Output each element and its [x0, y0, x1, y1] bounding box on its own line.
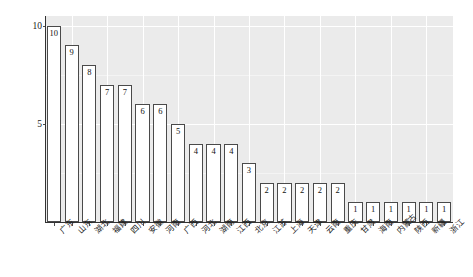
y-tick-label: 10: [16, 21, 42, 31]
bar[interactable]: 6: [135, 104, 149, 222]
x-tick-mark: [196, 223, 197, 226]
bar[interactable]: 2: [277, 183, 291, 222]
bar-value-label: 2: [314, 185, 326, 195]
x-tick-mark: [72, 223, 73, 226]
x-tick-mark: [267, 223, 268, 226]
x-tick-mark: [302, 223, 303, 226]
x-tick-label: 甘肃: [359, 229, 365, 235]
bar-value-label: 2: [296, 185, 308, 195]
y-axis-line: [45, 16, 46, 223]
x-tick-label: 河南: [164, 229, 170, 235]
x-tick-label: 新疆: [430, 229, 436, 235]
x-tick-label: 浙江: [448, 229, 454, 235]
x-tick-label: 福建: [111, 229, 117, 235]
x-tick-label: 广东: [58, 229, 64, 235]
bar-value-label: 4: [190, 146, 202, 156]
bar-value-label: 1: [367, 204, 379, 214]
x-tick-mark: [391, 223, 392, 226]
bar-value-label: 4: [207, 146, 219, 156]
bar-value-label: 5: [172, 126, 184, 136]
x-tick-mark: [125, 223, 126, 226]
bar[interactable]: 2: [313, 183, 327, 222]
bar[interactable]: 10: [47, 26, 61, 222]
bar[interactable]: 6: [153, 104, 167, 222]
bar-value-label: 6: [136, 106, 148, 116]
x-tick-label: 湖南: [218, 229, 224, 235]
bar-value-label: 4: [225, 146, 237, 156]
x-tick-label: 江苏: [271, 229, 277, 235]
bar-value-label: 2: [261, 185, 273, 195]
bar[interactable]: 4: [189, 144, 203, 222]
bar-value-label: 10: [48, 28, 60, 38]
y-tick-label: 5: [16, 119, 42, 129]
x-tick-label: 上海: [288, 229, 294, 235]
bar[interactable]: 2: [260, 183, 274, 222]
bar-value-label: 9: [66, 47, 78, 57]
plot-panel: 109877665444322222111111: [45, 16, 453, 222]
bar[interactable]: 4: [206, 144, 220, 222]
y-axis-tick-group: 510: [12, 0, 42, 277]
x-tick-label: 云南: [324, 229, 330, 235]
x-tick-mark: [444, 223, 445, 226]
x-tick-mark: [54, 223, 55, 226]
x-tick-mark: [178, 223, 179, 226]
bar[interactable]: 2: [295, 183, 309, 222]
x-tick-label: 江西: [235, 229, 241, 235]
bar[interactable]: 2: [331, 183, 345, 222]
bar-value-label: 7: [119, 87, 131, 97]
x-tick-label: 湖北: [93, 229, 99, 235]
x-tick-mark: [160, 223, 161, 226]
x-tick-label: 河北: [200, 229, 206, 235]
bar-chart: 核心场数量（个） 510 109877665444322222111111 广东…: [0, 0, 473, 277]
x-tick-mark: [284, 223, 285, 226]
bar-value-label: 2: [278, 185, 290, 195]
x-tick-mark: [426, 223, 427, 226]
bar[interactable]: 4: [224, 144, 238, 222]
x-tick-mark: [143, 223, 144, 226]
x-tick-mark: [320, 223, 321, 226]
bars-layer: 109877665444322222111111: [45, 16, 453, 222]
x-tick-label: 天津: [306, 229, 312, 235]
x-tick-mark: [214, 223, 215, 226]
x-tick-mark: [373, 223, 374, 226]
x-tick-label: 陕西: [413, 229, 419, 235]
x-tick-mark: [231, 223, 232, 226]
x-tick-mark: [355, 223, 356, 226]
x-tick-mark: [409, 223, 410, 226]
bar[interactable]: 3: [242, 163, 256, 222]
x-tick-mark: [249, 223, 250, 226]
bar[interactable]: 8: [82, 65, 96, 222]
x-tick-label: 北京: [253, 229, 259, 235]
bar-value-label: 1: [438, 204, 450, 214]
x-tick-mark: [107, 223, 108, 226]
bar-value-label: 3: [243, 165, 255, 175]
x-tick-label: 广西: [182, 229, 188, 235]
x-tick-label: 内蒙古: [395, 229, 401, 235]
x-tick-label: 安徽: [147, 229, 153, 235]
bar-value-label: 1: [349, 204, 361, 214]
bar-value-label: 1: [385, 204, 397, 214]
bar-value-label: 6: [154, 106, 166, 116]
x-tick-label: 四川: [129, 229, 135, 235]
x-tick-mark: [338, 223, 339, 226]
bar[interactable]: 9: [65, 45, 79, 222]
bar[interactable]: 5: [171, 124, 185, 222]
x-tick-label: 海南: [377, 229, 383, 235]
x-tick-label: 山东: [76, 229, 82, 235]
bar[interactable]: 7: [118, 85, 132, 222]
bar-value-label: 7: [101, 87, 113, 97]
bar-value-label: 8: [83, 67, 95, 77]
bar-value-label: 2: [332, 185, 344, 195]
bar-value-label: 1: [420, 204, 432, 214]
bar[interactable]: 7: [100, 85, 114, 222]
x-tick-mark: [89, 223, 90, 226]
x-axis-tick-group: 广东山东湖北福建四川安徽河南广西河北湖南江西北京江苏上海天津云南重庆甘肃海南内蒙…: [45, 223, 453, 277]
x-tick-label: 重庆: [342, 229, 348, 235]
